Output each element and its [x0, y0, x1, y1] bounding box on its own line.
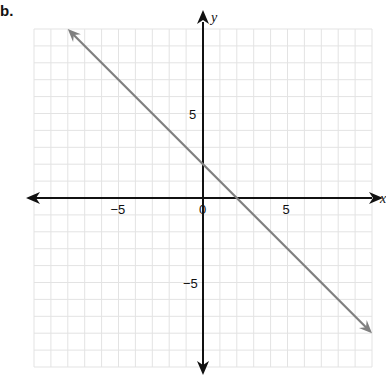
y-axis-label: y	[209, 10, 218, 25]
x-tick-label-neg5: −5	[111, 202, 126, 217]
coordinate-plane: yx−5055−5	[0, 0, 386, 375]
y-axis-top-arrow-icon	[197, 10, 209, 24]
x-tick-label-5: 5	[283, 202, 290, 217]
x-axis-label: x	[379, 191, 386, 206]
y-tick-label-neg5: −5	[183, 276, 198, 291]
y-tick-label-5: 5	[189, 107, 196, 122]
origin-label: 0	[199, 202, 206, 217]
